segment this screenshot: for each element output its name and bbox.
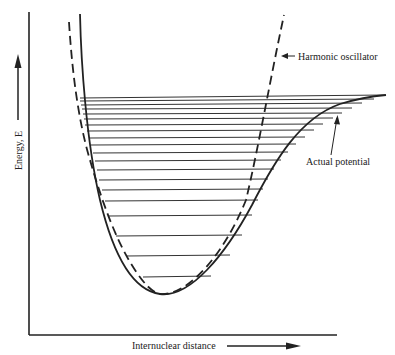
harmonic-pointer-icon [281, 53, 295, 59]
actual-pointer-icon [331, 115, 340, 155]
x-axis-arrow-icon [227, 343, 301, 350]
y-axis-label: Energy, E [13, 131, 24, 170]
x-axis-label: Internuclear distance [132, 340, 216, 351]
potential-energy-diagram: Energy, E Internuclear distance [0, 0, 395, 355]
y-axis-arrow-icon [15, 54, 22, 120]
harmonic-oscillator-label: Harmonic oscillator [298, 51, 378, 62]
harmonic-oscillator-curve [69, 15, 284, 294]
actual-potential-label: Actual potential [306, 156, 370, 167]
